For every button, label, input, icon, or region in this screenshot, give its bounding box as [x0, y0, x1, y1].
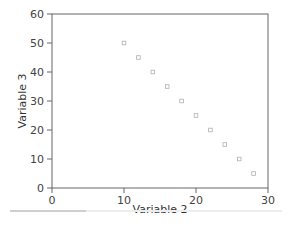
data-point — [151, 70, 155, 74]
y-axis-label: Variable 3 — [16, 73, 29, 128]
scrollbar-thumb[interactable] — [10, 210, 86, 212]
data-point — [223, 143, 227, 147]
y-tick-label: 0 — [37, 182, 44, 195]
y-tick-label: 30 — [30, 95, 44, 108]
y-tick-label: 50 — [30, 37, 44, 50]
scatter-chart: 0102030405060 0102030 Variable 2 Variabl… — [0, 0, 289, 234]
data-point — [122, 41, 126, 45]
y-tick-label: 10 — [30, 153, 44, 166]
data-point — [209, 128, 213, 132]
data-point — [194, 114, 198, 118]
y-axis: 0102030405060 — [30, 8, 52, 195]
plot-frame — [52, 14, 268, 188]
y-tick-label: 60 — [30, 8, 44, 21]
data-point — [180, 99, 184, 103]
y-tick-label: 20 — [30, 124, 44, 137]
plot-border — [52, 14, 268, 188]
y-tick-label: 40 — [30, 66, 44, 79]
horizontal-scrollbar[interactable] — [10, 210, 282, 212]
data-point — [165, 85, 169, 89]
data-point — [137, 56, 141, 60]
data-point — [237, 157, 241, 161]
x-tick-label: 30 — [261, 194, 275, 207]
x-tick-label: 10 — [117, 194, 131, 207]
data-points — [122, 41, 255, 175]
x-tick-label: 20 — [189, 194, 203, 207]
x-tick-label: 0 — [49, 194, 56, 207]
data-point — [252, 172, 256, 176]
